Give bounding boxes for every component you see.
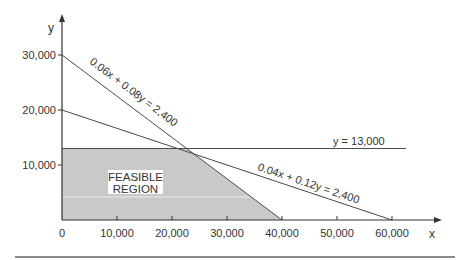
- equation-label-a: 0.06x + 0.08y = 2,400: [88, 55, 180, 128]
- x-axis-label: x: [429, 227, 435, 241]
- feasible-region: [62, 149, 282, 221]
- x-axis-arrow-icon: [434, 217, 442, 223]
- x-tick-label: 60,000: [375, 227, 409, 239]
- region-label-line1: FEASIBLE: [108, 171, 163, 183]
- x-tick-label: 10,000: [100, 227, 134, 239]
- linear-programming-chart: FEASIBLE REGION 0.06x + 0.08y = 2,400 0.…: [0, 0, 459, 260]
- equation-label-b: 0.04x + 0.12y = 2,400: [256, 161, 361, 206]
- x-tick-label: 40,000: [265, 227, 299, 239]
- y-tick-label: 30,000: [22, 49, 56, 61]
- equation-label-y13000: y = 13,000: [333, 135, 385, 147]
- bottom-rule-divider: [15, 256, 455, 258]
- y-tick-label: 20,000: [22, 104, 56, 116]
- y-tick-label: 10,000: [22, 159, 56, 171]
- y-axis-label: y: [48, 21, 54, 35]
- y-axis-arrow-icon: [59, 14, 65, 22]
- x-tick-label: 0: [59, 227, 65, 239]
- x-tick-label: 20,000: [155, 227, 189, 239]
- region-label-line2: REGION: [113, 183, 158, 195]
- x-tick-label: 30,000: [210, 227, 244, 239]
- x-tick-label: 50,000: [320, 227, 354, 239]
